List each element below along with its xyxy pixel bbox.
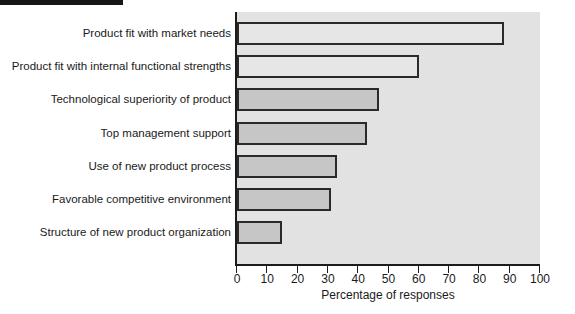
- bar-row: [237, 188, 540, 211]
- bar: [237, 88, 379, 111]
- tick-label: 30: [313, 272, 343, 286]
- scan-artifact-mark: [0, 0, 123, 5]
- category-label: Top management support: [0, 122, 231, 145]
- tick-label: 70: [434, 272, 464, 286]
- bar: [237, 221, 282, 244]
- bar-row: [237, 22, 540, 45]
- tick-label: 50: [374, 272, 404, 286]
- tick-label: 10: [252, 272, 282, 286]
- tick-label: 60: [404, 272, 434, 286]
- category-label: Structure of new product organization: [0, 221, 231, 244]
- bar: [237, 55, 419, 78]
- bar: [237, 155, 337, 178]
- tick-label: 20: [283, 272, 313, 286]
- tick-label: 90: [495, 272, 525, 286]
- tick-label: 80: [464, 272, 494, 286]
- bar: [237, 122, 367, 145]
- bar-row: [237, 221, 540, 244]
- bar: [237, 188, 331, 211]
- category-label: Use of new product process: [0, 155, 231, 178]
- tick-label: 100: [525, 272, 555, 286]
- bar-row: [237, 155, 540, 178]
- category-label: Product fit with market needs: [0, 22, 231, 45]
- tick-label: 0: [222, 272, 252, 286]
- tick-label: 40: [343, 272, 373, 286]
- bar: [237, 22, 504, 45]
- bar-row: [237, 88, 540, 111]
- category-label: Product fit with internal functional str…: [0, 55, 231, 78]
- chart-figure: Product fit with market needsProduct fit…: [0, 0, 575, 314]
- category-label: Favorable competitive environment: [0, 188, 231, 211]
- category-label: Technological superiority of product: [0, 88, 231, 111]
- bar-row: [237, 55, 540, 78]
- bar-row: [237, 122, 540, 145]
- x-axis-title: Percentage of responses: [236, 288, 540, 302]
